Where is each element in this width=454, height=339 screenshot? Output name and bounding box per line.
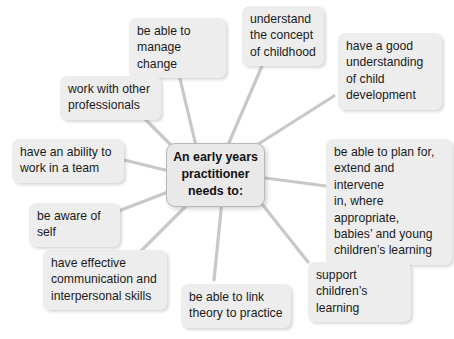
node-child-development-line-2: understanding: [346, 54, 434, 70]
node-support-learning-line-1: support children’s: [316, 267, 403, 300]
node-other-professionals: work with other professionals: [60, 76, 161, 120]
node-work-in-a-team: have an ability to work in a team: [12, 139, 124, 183]
connector-support-learning: [258, 199, 308, 262]
connector-aware-of-self: [116, 192, 168, 212]
node-communication-skills: have effective communication and interpe…: [43, 250, 167, 310]
node-concept-of-childhood-line-1: understand: [250, 11, 316, 27]
node-aware-of-self-line-1: be aware of self: [37, 208, 112, 241]
node-plan-extend-intervene-line-5: children’s learning: [334, 242, 444, 258]
node-child-development-line-3: of child: [346, 71, 434, 87]
node-manage-change: be able to manage change: [129, 18, 226, 78]
node-theory-to-practice-line-1: be able to link: [189, 289, 283, 305]
node-communication-skills-line-3: interpersonal skills: [51, 288, 159, 304]
node-work-in-a-team-line-2: work in a team: [20, 160, 116, 176]
node-support-learning-line-2: learning: [316, 300, 403, 316]
node-plan-extend-intervene: be able to plan for, extend and interven…: [326, 139, 452, 265]
node-work-in-a-team-line-1: have an ability to: [20, 144, 116, 160]
node-theory-to-practice-line-2: theory to practice: [189, 305, 283, 321]
connector-work-in-a-team: [124, 160, 165, 170]
node-support-learning: support children’s learning: [308, 262, 411, 322]
node-concept-of-childhood-line-3: of childhood: [250, 44, 316, 60]
node-concept-of-childhood: understand the concept of childhood: [242, 6, 324, 66]
node-child-development: have a good understanding of child devel…: [338, 33, 442, 110]
node-other-professionals-line-2: professionals: [68, 97, 153, 113]
connector-plan-extend-intervene: [265, 178, 326, 186]
node-aware-of-self: be aware of self: [29, 203, 120, 247]
node-manage-change-line-1: be able to: [137, 23, 218, 39]
connector-concept-of-childhood: [228, 66, 262, 145]
node-theory-to-practice: be able to link theory to practice: [181, 284, 291, 328]
center-node-line-2: practitioner: [173, 166, 258, 183]
node-concept-of-childhood-line-2: the concept: [250, 27, 316, 43]
center-node-line-1: An early years: [173, 149, 258, 166]
node-plan-extend-intervene-line-4: babies’ and young: [334, 226, 444, 242]
center-node-line-3: needs to:: [173, 183, 258, 200]
node-communication-skills-line-2: communication and: [51, 271, 159, 287]
node-other-professionals-line-1: work with other: [68, 81, 153, 97]
connector-child-development: [252, 96, 334, 148]
center-node: An early years practitioner needs to:: [166, 143, 265, 207]
node-child-development-line-1: have a good: [346, 38, 434, 54]
node-plan-extend-intervene-line-3: in, where appropriate,: [334, 193, 444, 226]
node-plan-extend-intervene-line-1: be able to plan for,: [334, 144, 444, 160]
node-plan-extend-intervene-line-2: extend and intervene: [334, 160, 444, 193]
node-manage-change-line-2: manage change: [137, 39, 218, 72]
node-child-development-line-4: development: [346, 87, 434, 103]
connector-theory-to-practice: [214, 201, 222, 280]
node-communication-skills-line-1: have effective: [51, 255, 159, 271]
mind-map-diagram: An early years practitioner needs to: be…: [0, 0, 454, 339]
